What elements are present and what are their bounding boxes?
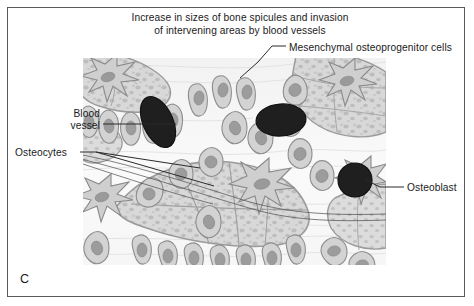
figure-title: Increase in sizes of bone spicules and i…	[60, 12, 420, 37]
label-blood-vessel: Blood vessel	[42, 108, 100, 132]
figure-root: Increase in sizes of bone spicules and i…	[0, 0, 474, 306]
bone-spicule-illustration	[83, 58, 386, 265]
label-mesenchymal-osteoprogenitor-cells: Mesenchymal osteoprogenitor cells	[289, 42, 452, 54]
figure-title-line-1: Increase in sizes of bone spicules and i…	[60, 12, 420, 25]
panel-letter: C	[20, 272, 29, 286]
label-osteoblast: Osteoblast	[407, 182, 457, 194]
blood-vessel-right	[338, 163, 372, 197]
label-osteocytes: Osteocytes	[15, 147, 67, 159]
figure-title-line-2: of intervening areas by blood vessels	[60, 25, 420, 38]
